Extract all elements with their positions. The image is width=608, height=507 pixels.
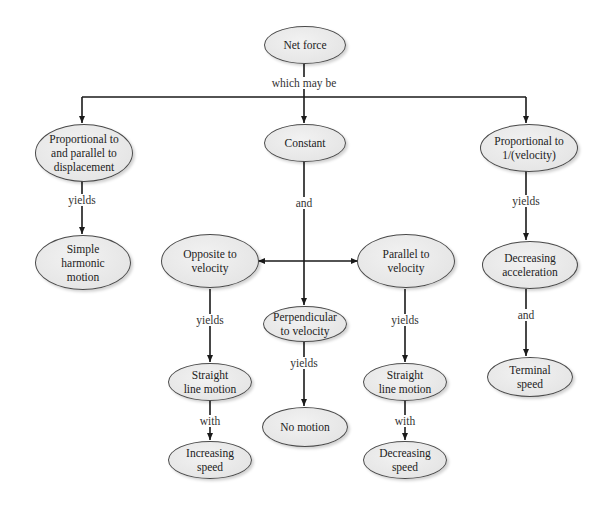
- node-straight-line-motion-left: Straight line motion: [168, 363, 252, 401]
- net-force-concept-map: Net force Proportional to and parallel t…: [0, 0, 608, 507]
- edge-label-and: and: [294, 197, 315, 209]
- edge-label-yields: yields: [288, 357, 319, 369]
- node-terminal-speed: Terminal speed: [487, 357, 573, 397]
- node-perpendicular-to-velocity: Perpendicular to velocity: [263, 306, 347, 342]
- node-proportional-displacement: Proportional to and parallel to displace…: [35, 124, 133, 182]
- node-proportional-inverse-velocity: Proportional to 1/(velocity): [480, 124, 578, 172]
- node-label: Proportional to and parallel to displace…: [49, 132, 118, 174]
- node-label: Straight line motion: [379, 368, 432, 396]
- node-no-motion: No motion: [262, 407, 348, 447]
- edge-label-and: and: [516, 309, 537, 321]
- node-label: Straight line motion: [184, 368, 237, 396]
- node-label: Proportional to 1/(velocity): [494, 134, 563, 162]
- node-net-force: Net force: [264, 26, 346, 64]
- node-label: Perpendicular to velocity: [273, 310, 337, 338]
- edge-label-yields: yields: [194, 314, 225, 326]
- node-label: Terminal speed: [509, 363, 550, 391]
- node-label: Parallel to velocity: [383, 247, 430, 275]
- node-opposite-to-velocity: Opposite to velocity: [161, 234, 259, 288]
- node-label: Simple harmonic motion: [61, 242, 104, 284]
- node-label: Decreasing acceleration: [502, 251, 558, 279]
- node-constant: Constant: [264, 124, 346, 162]
- node-label: Constant: [285, 136, 326, 150]
- node-parallel-to-velocity: Parallel to velocity: [357, 234, 455, 288]
- edge-label-yields: yields: [66, 194, 97, 206]
- edge-label-with: with: [198, 415, 222, 427]
- node-decreasing-acceleration: Decreasing acceleration: [482, 241, 578, 289]
- node-simple-harmonic-motion: Simple harmonic motion: [35, 235, 131, 290]
- edge-label-with: with: [393, 415, 417, 427]
- node-increasing-speed: Increasing speed: [168, 441, 252, 479]
- node-straight-line-motion-right: Straight line motion: [363, 363, 447, 401]
- node-label: Increasing speed: [186, 446, 234, 474]
- node-label: Decreasing speed: [379, 446, 431, 474]
- edge-label-yields: yields: [389, 314, 420, 326]
- node-decreasing-speed: Decreasing speed: [363, 441, 447, 479]
- node-label: Net force: [283, 38, 326, 52]
- node-label: Opposite to velocity: [183, 247, 236, 275]
- edge-label-which-may-be: which may be: [270, 77, 339, 89]
- node-label: No motion: [280, 420, 330, 434]
- edge-label-yields: yields: [510, 195, 541, 207]
